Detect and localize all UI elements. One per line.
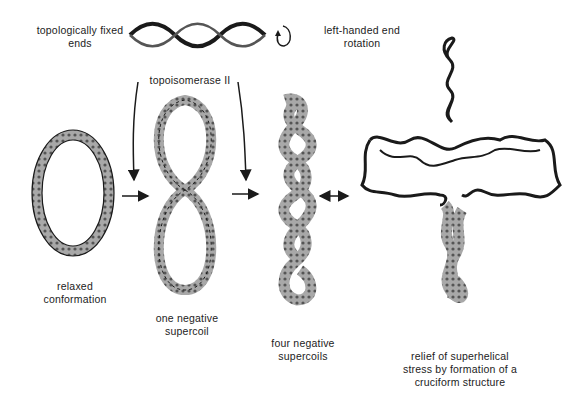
label-relaxed: relaxed conformation xyxy=(20,280,130,306)
label-four-negative: four negative supercoils xyxy=(248,337,358,363)
label-rotation-line1: left-handed end xyxy=(302,24,422,37)
label-rotation-line2: rotation xyxy=(302,37,422,50)
relaxed-loop xyxy=(37,135,109,251)
label-one-negative-line1: one negative xyxy=(132,312,242,325)
label-relief: relief of superhelical stress by formati… xyxy=(390,350,530,389)
top-double-helix xyxy=(130,24,265,47)
label-fixed-ends-line2: ends xyxy=(20,37,140,50)
label-rotation: left-handed end rotation xyxy=(302,24,422,50)
cruciform-structure xyxy=(362,38,560,205)
enzyme-arrow-right xyxy=(238,82,246,180)
label-fixed-ends: topologically fixed ends xyxy=(20,24,140,50)
label-four-negative-line2: supercoils xyxy=(248,350,358,363)
label-relaxed-line1: relaxed xyxy=(20,280,130,293)
four-supercoils-plectoneme xyxy=(284,99,312,300)
label-relief-line1: relief of superhelical xyxy=(390,350,530,363)
rotation-arrow-icon xyxy=(275,26,290,46)
enzyme-arrow-left xyxy=(133,82,138,180)
one-supercoil-figure-eight xyxy=(159,100,212,290)
label-fixed-ends-line1: topologically fixed xyxy=(20,24,140,37)
cruciform-bottom-hairpin xyxy=(445,205,463,300)
label-relaxed-line2: conformation xyxy=(20,293,130,306)
label-four-negative-line1: four negative xyxy=(248,337,358,350)
label-one-negative-line2: supercoil xyxy=(132,325,242,338)
label-relief-line3: cruciform structure xyxy=(390,376,530,389)
label-enzyme: topoisomerase II xyxy=(140,74,240,87)
label-relief-line2: stress by formation of a xyxy=(390,363,530,376)
label-one-negative: one negative supercoil xyxy=(132,312,242,338)
